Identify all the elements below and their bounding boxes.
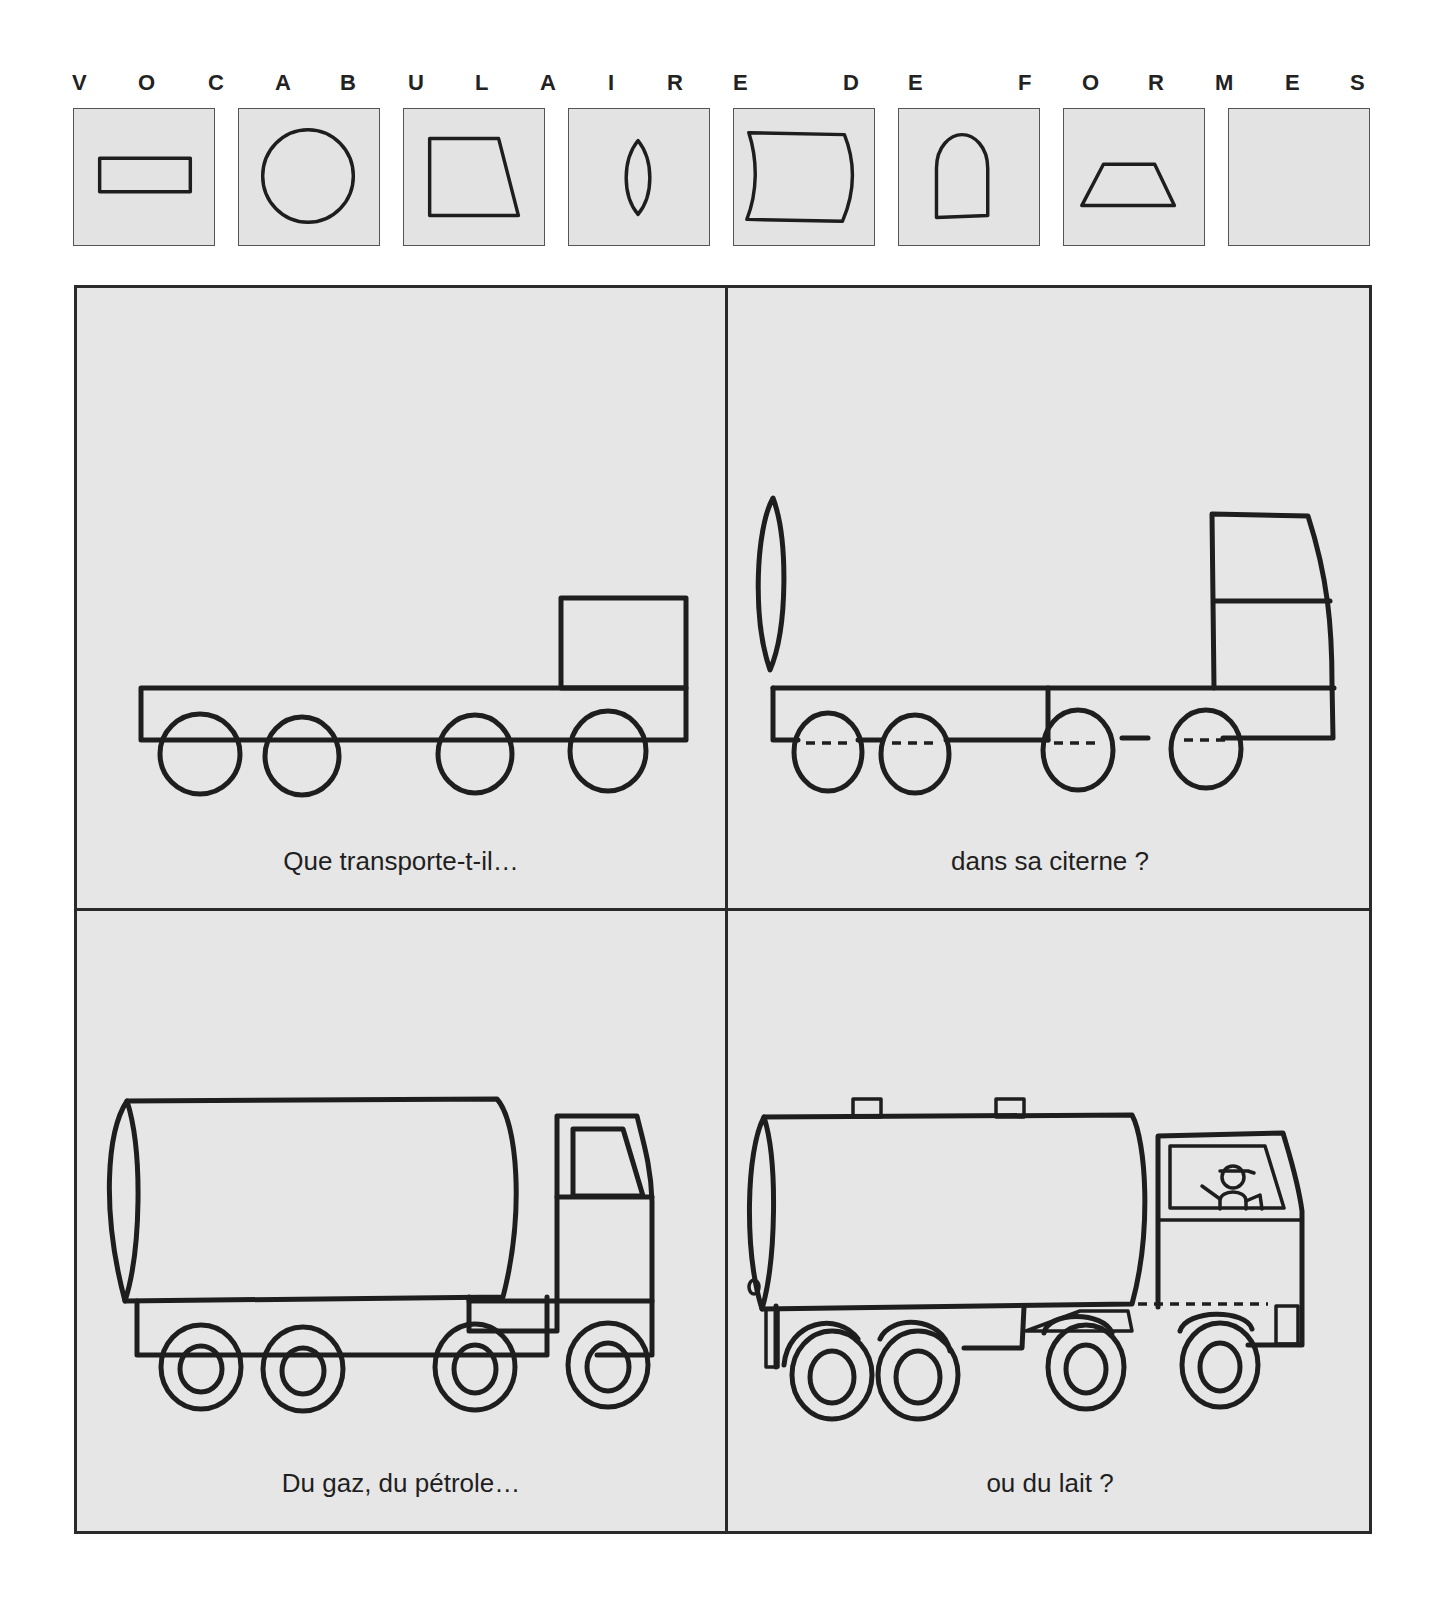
title-letter: B [340, 70, 356, 96]
title-letter: S [1350, 70, 1365, 96]
title-letter: O [138, 70, 155, 96]
circle-shape-icon [239, 109, 379, 245]
isosceles-trapezoid-shape-icon [1064, 109, 1204, 245]
title-letter: U [408, 70, 424, 96]
title-letter: E [908, 70, 923, 96]
title-letter: R [667, 70, 683, 96]
title-letter: I [608, 70, 614, 96]
shape-box-lens [568, 108, 710, 246]
title-letter: A [275, 70, 291, 96]
curved-rectangle-shape-icon [734, 109, 874, 245]
drawing-steps-grid: Que transporte-t-il… dans sa citerne ? [74, 285, 1372, 1534]
title-letter: L [475, 70, 488, 96]
tanker-truck-drawing [77, 911, 725, 1534]
title-letter: V [72, 70, 87, 96]
shape-box-rectangle [73, 108, 215, 246]
caption-step-2: dans sa citerne ? [728, 846, 1372, 877]
title-letter: O [1082, 70, 1099, 96]
arch-shape-icon [899, 109, 1039, 245]
title-letter: A [540, 70, 556, 96]
title-letter: D [843, 70, 859, 96]
panel-step-1: Que transporte-t-il… [77, 288, 725, 908]
trapezoid-shape-icon [404, 109, 544, 245]
shape-box-circle [238, 108, 380, 246]
panel-step-4: ou du lait ? [728, 911, 1372, 1534]
vocabulary-title: VOCABULAIREDEFORMES [70, 70, 1380, 100]
rectangle-shape-icon [74, 109, 214, 245]
truck-chassis-drawing [77, 288, 725, 908]
caption-step-4: ou du lait ? [728, 1468, 1372, 1499]
shape-box-isosceles-trapezoid [1063, 108, 1205, 246]
lens-shape-icon [569, 109, 709, 245]
title-letter: R [1148, 70, 1164, 96]
horizontal-divider [77, 908, 1369, 911]
milk-tanker-truck-drawing [728, 911, 1372, 1534]
title-letter: M [1215, 70, 1233, 96]
shape-box-empty [1228, 108, 1370, 246]
truck-outline-drawing [728, 288, 1372, 908]
title-letter: F [1018, 70, 1031, 96]
title-letter: C [208, 70, 224, 96]
title-letter: E [1285, 70, 1300, 96]
panel-step-2: dans sa citerne ? [728, 288, 1372, 908]
shape-box-curved-rectangle [733, 108, 875, 246]
shape-box-trapezoid [403, 108, 545, 246]
shape-box-arch [898, 108, 1040, 246]
title-letter: E [733, 70, 748, 96]
panel-step-3: Du gaz, du pétrole… [77, 911, 725, 1534]
caption-step-3: Du gaz, du pétrole… [77, 1468, 725, 1499]
caption-step-1: Que transporte-t-il… [77, 846, 725, 877]
